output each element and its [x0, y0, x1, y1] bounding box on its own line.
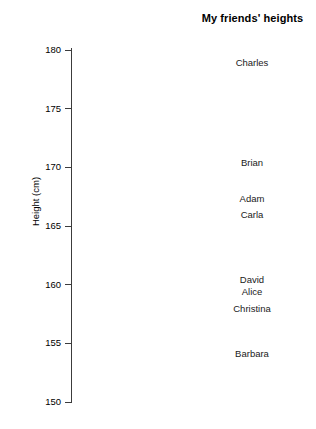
y-axis-tick-label: 165 — [1, 221, 61, 231]
y-axis-tick-label: 150 — [1, 397, 61, 407]
y-axis-tick — [65, 226, 72, 227]
y-axis-tick-label: 175 — [1, 104, 61, 114]
y-axis-tick — [65, 108, 72, 109]
y-axis-tick — [65, 50, 72, 51]
y-axis-tick-label: 160 — [1, 280, 61, 290]
data-point-label: Carla — [192, 210, 312, 220]
y-axis-tick — [65, 343, 72, 344]
y-axis-tick — [65, 284, 72, 285]
chart-canvas: My friends' heights Height (cm) 15015516… — [0, 0, 316, 429]
data-point-label: Alice — [192, 287, 312, 297]
data-point-label: David — [192, 275, 312, 285]
data-point-label: Barbara — [192, 349, 312, 359]
y-axis-tick-label: 155 — [1, 338, 61, 348]
data-point-label: Adam — [192, 194, 312, 204]
data-point-label: Brian — [192, 158, 312, 168]
y-axis-tick-label: 180 — [1, 45, 61, 55]
y-axis-tick — [65, 402, 72, 403]
data-point-label: Charles — [192, 58, 312, 68]
chart-title: My friends' heights — [189, 12, 316, 24]
y-axis-tick — [65, 167, 72, 168]
data-point-label: Christina — [192, 304, 312, 314]
y-axis-tick-label: 170 — [1, 162, 61, 172]
